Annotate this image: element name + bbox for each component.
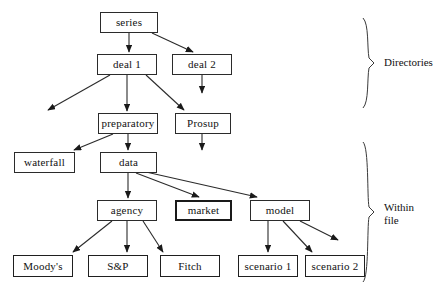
brace-label-within-file: Within file (384, 201, 414, 226)
node-scenario2[interactable]: scenario 2 (305, 255, 365, 277)
node-label: data (119, 157, 138, 168)
connector-layer (0, 0, 444, 287)
node-label: preparatory (102, 118, 155, 129)
node-moodys[interactable]: Moody's (13, 255, 73, 277)
node-label: series (116, 17, 142, 28)
brace-group (363, 18, 374, 282)
edge-model-to-scenario2 (283, 221, 312, 252)
node-agency[interactable]: agency (97, 200, 157, 221)
node-preparatory[interactable]: preparatory (98, 113, 158, 134)
node-label: waterfall (24, 157, 65, 168)
node-snp[interactable]: S&P (88, 255, 148, 277)
node-label: Fitch (178, 261, 202, 272)
edge-agency-to-moodys (73, 221, 112, 252)
node-label: Moody's (23, 261, 62, 272)
edge-data-to-model (146, 172, 257, 197)
node-deal2[interactable]: deal 2 (172, 54, 232, 75)
node-label: deal 2 (188, 59, 216, 70)
node-model[interactable]: model (250, 200, 310, 221)
node-deal1[interactable]: deal 1 (97, 54, 157, 75)
edge-preparatory-to-waterfall (74, 134, 113, 150)
edge-deal1-to-unlabeled (48, 75, 110, 110)
diagram-canvas: seriesdeal 1deal 2preparatoryProsupwater… (0, 0, 444, 287)
node-scenario1[interactable]: scenario 1 (238, 255, 298, 277)
node-label: deal 1 (113, 59, 141, 70)
node-label: model (266, 205, 295, 216)
node-data[interactable]: data (100, 152, 157, 173)
edge-model-to-unlabeled (300, 221, 338, 240)
edge-agency-to-fitch (143, 221, 163, 252)
brace-directories (363, 18, 374, 108)
node-label: Prosup (187, 118, 219, 129)
node-market[interactable]: market (175, 200, 232, 221)
node-series[interactable]: series (100, 12, 158, 33)
node-label: scenario 1 (245, 261, 292, 272)
node-label: scenario 2 (312, 261, 359, 272)
node-waterfall[interactable]: waterfall (14, 152, 75, 173)
brace-label-directories: Directories (384, 56, 433, 69)
node-prosup[interactable]: Prosup (175, 113, 231, 134)
node-label: agency (111, 205, 143, 216)
node-label: market (188, 205, 220, 216)
node-label: S&P (107, 261, 128, 272)
node-fitch[interactable]: Fitch (160, 255, 220, 277)
edge-series-to-deal2 (152, 33, 193, 52)
edge-deal1-to-prosup (146, 75, 184, 110)
